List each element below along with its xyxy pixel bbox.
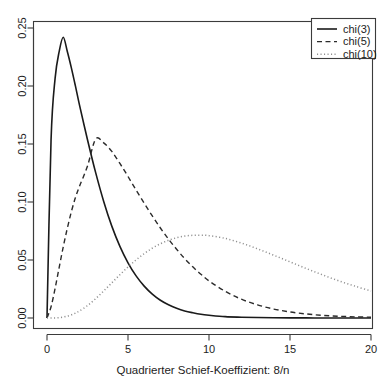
y-tick-label: 0.20 [16, 75, 28, 96]
x-axis: 05101520 [44, 335, 377, 356]
x-tick-label: 10 [203, 343, 215, 355]
y-tick-label: 0.05 [16, 249, 28, 270]
curve-chi10 [47, 235, 371, 318]
x-tick-label: 5 [125, 343, 131, 355]
data-curves [47, 37, 371, 318]
chart-container: 0.000.050.100.150.200.25 05101520 chi(3)… [0, 0, 391, 382]
chi-density-plot: 0.000.050.100.150.200.25 05101520 chi(3)… [0, 0, 391, 382]
legend-label-chi5: chi(5) [343, 35, 371, 47]
legend: chi(3)chi(5)chi(10) [312, 19, 377, 61]
y-tick-label: 0.15 [16, 133, 28, 154]
x-axis-title: Quadrierter Schief-Koeffizient: 8/n [116, 364, 289, 376]
legend-label-chi10: chi(10) [343, 48, 377, 60]
y-tick-label: 0.00 [16, 307, 28, 328]
y-axis: 0.000.050.100.150.200.25 [16, 17, 34, 328]
x-tick-label: 0 [44, 343, 50, 355]
y-tick-label: 0.25 [16, 17, 28, 38]
x-tick-label: 15 [284, 343, 296, 355]
y-tick-label: 0.10 [16, 191, 28, 212]
curve-chi3 [47, 37, 371, 318]
curve-chi5 [47, 138, 371, 318]
legend-label-chi3: chi(3) [343, 23, 371, 35]
x-tick-label: 20 [365, 343, 377, 355]
